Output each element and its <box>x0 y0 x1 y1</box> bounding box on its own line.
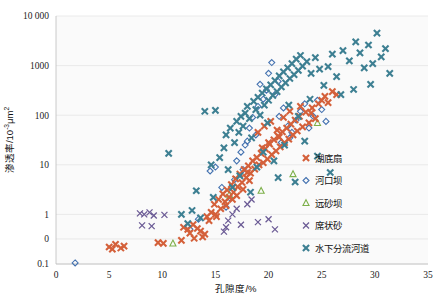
y-tick-label: 0 <box>44 234 49 244</box>
x-tick-label: 15 <box>211 270 221 280</box>
x-axis-title: 孔隙度/% <box>215 283 257 294</box>
legend-label: 湖底扇 <box>315 153 342 164</box>
x-tick-label: 10 <box>158 270 168 280</box>
plot-area-background <box>56 16 428 264</box>
x-tick-label: 5 <box>107 270 112 280</box>
x-tick-label: 25 <box>317 270 327 280</box>
x-tick-label: 35 <box>423 270 433 280</box>
x-tick-label: 0 <box>54 270 59 280</box>
legend-label: 远砂坝 <box>315 198 342 209</box>
y-tick-label: 0.1 <box>37 259 49 269</box>
y-tick-label: 10 000 <box>23 11 49 21</box>
legend-label: 席状砂 <box>315 220 342 231</box>
y-axis-title: 渗透率/10-3μm2 <box>3 107 15 173</box>
x-tick-label: 30 <box>370 270 380 280</box>
y-tick-label: 1000 <box>30 61 49 71</box>
y-tick-label: 1 <box>44 210 49 220</box>
scatter-chart: 10 000100010010100.1 05101520253035 渗透率/… <box>0 0 446 303</box>
legend-label: 水下分流河道 <box>315 243 369 254</box>
x-tick-label: 20 <box>264 270 274 280</box>
y-axis-title-text: 渗透率/10-3μm2 <box>3 107 15 173</box>
y-tick-label: 100 <box>35 111 50 121</box>
legend-label: 河口坝 <box>315 175 342 186</box>
y-tick-label: 10 <box>40 160 50 170</box>
